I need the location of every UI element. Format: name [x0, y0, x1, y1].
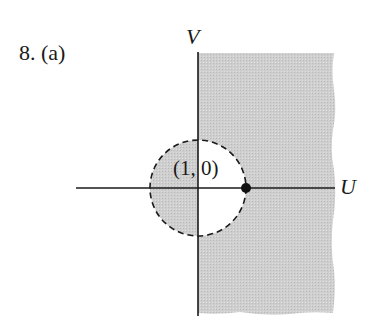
v-axis-label: V: [186, 24, 199, 50]
point-marker: [241, 183, 251, 193]
point-label: (1, 0): [173, 156, 219, 181]
problem-label: 8. (a): [19, 40, 65, 66]
u-axis-label: U: [340, 174, 356, 200]
figure: 8. (a) V U (1, 0): [0, 0, 375, 329]
